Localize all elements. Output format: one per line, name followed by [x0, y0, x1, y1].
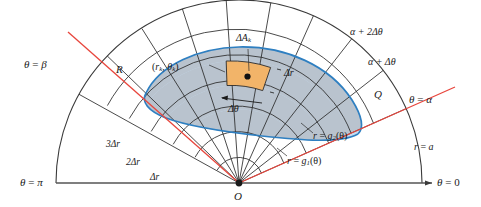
label-delta-A-k: ΔAk	[236, 33, 251, 44]
label-alpha-plus-delta-theta: α + Δθ	[368, 57, 396, 67]
label-r-equals-a: r = a	[414, 142, 434, 152]
label-theta-pi: θ = π	[20, 177, 43, 188]
label-theta-beta: θ = β	[24, 59, 47, 70]
label-r-equals-g1: r = g1(θ)	[287, 156, 321, 167]
label-delta-theta-cell: Δθ	[228, 104, 239, 114]
origin-dot	[236, 180, 243, 187]
label-r-equals-g2: r = g2(θ)	[313, 131, 347, 142]
label-origin-O: O	[234, 191, 242, 202]
label-theta-alpha: θ = α	[409, 94, 432, 105]
label-sample-point: (rk, θk)	[152, 62, 179, 73]
label-region-R: R	[116, 64, 123, 75]
polar-partition-figure: θ = β θ = α θ = π θ = 0 α + 2Δθ α + Δθ R…	[0, 0, 481, 207]
label-theta-zero: θ = 0	[437, 177, 460, 188]
label-three-delta-r: 3Δr	[106, 140, 120, 150]
sample-point-dot	[244, 73, 250, 79]
label-point-Q: Q	[374, 89, 382, 100]
label-two-delta-r: 2Δr	[126, 158, 140, 168]
label-delta-r-cell: Δr	[284, 68, 294, 78]
label-delta-r-ring: Δr	[150, 173, 159, 183]
label-alpha-plus-2-delta-theta: α + 2Δθ	[350, 27, 383, 37]
